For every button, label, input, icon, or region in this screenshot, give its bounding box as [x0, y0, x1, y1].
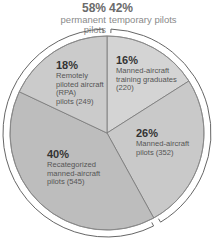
slice-text: (220) — [116, 83, 134, 92]
slice-percent: 16% — [116, 54, 177, 66]
slice-percent: 40% — [47, 148, 100, 160]
slice-label-training-graduates: 16% Manned-aircraft training graduates (… — [116, 54, 177, 93]
slice-label-rpa-pilots: 18% Remotely piloted aircraft (RPA) pilo… — [56, 59, 104, 106]
slice-percent: 18% — [56, 59, 104, 71]
slice-percent: 26% — [136, 127, 189, 139]
slice-text: pilots (545) — [47, 177, 85, 186]
pie-chart — [0, 0, 212, 239]
slice-text: pilots (352) — [136, 148, 174, 157]
slice-label-manned-pilots: 26% Manned-aircraft pilots (352) — [136, 127, 189, 157]
slice-text: pilots (249) — [56, 97, 94, 106]
slice-label-recategorized: 40% Recategorized manned-aircraft pilots… — [47, 148, 100, 187]
